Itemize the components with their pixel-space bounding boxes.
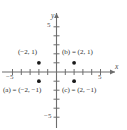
point-label-top-right: (b) = (2, 1) <box>62 49 93 56</box>
y-axis-arrow-icon <box>54 13 59 18</box>
y-tick-label-pos5: 5 <box>47 22 51 29</box>
point-label-top-left: (−2, 1) <box>18 49 37 56</box>
point-label-bottom-left: (a) = (−2, −1) <box>3 87 41 94</box>
data-point-d <box>37 61 41 65</box>
coordinate-plane-figure: y x −5 5 5 −5 (−2, 1) (b) = (2, 1) (a) =… <box>0 0 127 130</box>
x-tick-label-neg5: −5 <box>6 74 13 81</box>
y-axis-label: y <box>51 12 54 20</box>
plot-canvas <box>0 0 127 130</box>
data-point-a <box>37 79 41 83</box>
x-axis-label: x <box>115 63 118 71</box>
data-point-b <box>72 61 76 65</box>
data-point-c <box>72 79 76 83</box>
x-tick-label-pos5: 5 <box>98 74 102 81</box>
point-label-bottom-right: (c) = (2, −1) <box>62 87 96 94</box>
y-tick-label-neg5: −5 <box>44 113 51 120</box>
